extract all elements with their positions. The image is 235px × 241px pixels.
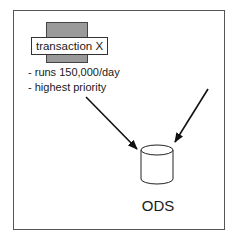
arrow-from-right <box>175 89 208 142</box>
ods-label: ODS <box>138 198 178 214</box>
database-cylinder-icon <box>141 145 173 184</box>
arrow-from-transaction <box>86 97 137 149</box>
diagram-graphics <box>0 0 235 241</box>
